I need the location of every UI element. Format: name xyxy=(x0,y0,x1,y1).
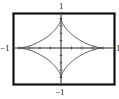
label-left: −1 xyxy=(0,44,10,53)
label-bottom: −1 xyxy=(55,88,65,97)
astroid-plot xyxy=(0,0,119,99)
plot-frame xyxy=(14,14,115,85)
label-top: 1 xyxy=(59,2,64,11)
label-right: 1 xyxy=(116,44,119,53)
